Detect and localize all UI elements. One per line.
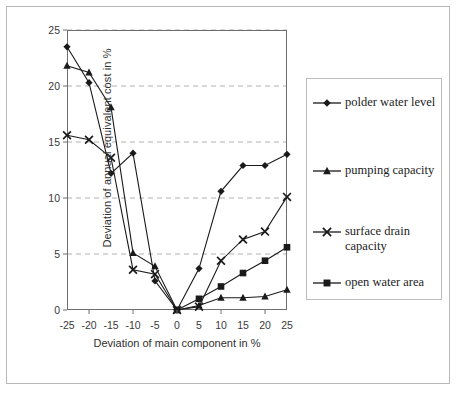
x-tick-label: 0	[174, 319, 180, 331]
diamond-marker-icon	[312, 96, 342, 110]
series-open-water-area	[174, 244, 291, 313]
x-tick-label: -5	[150, 319, 159, 331]
x-tick-label: 5	[196, 319, 202, 331]
x-tick-label: 15	[237, 319, 249, 331]
y-tick-mark	[63, 310, 67, 311]
y-tick-label: 5	[54, 248, 60, 260]
x-tick-label: -10	[125, 319, 140, 331]
y-tick-label: 15	[48, 136, 60, 148]
y-tick-mark	[63, 30, 67, 31]
legend-item-polder-water-level[interactable]: polder water level	[312, 95, 440, 129]
series-surface-drain-capacity	[63, 131, 291, 314]
y-tick-mark	[63, 142, 67, 143]
x-tick-mark	[177, 310, 178, 314]
cross-marker-icon	[312, 225, 342, 239]
legend-label: polder water level	[342, 95, 435, 110]
x-tick-mark	[265, 310, 266, 314]
series-polder-water-level	[63, 43, 290, 313]
y-tick-mark	[63, 198, 67, 199]
legend-item-surface-drain-capacity[interactable]: surface drain capacity	[312, 224, 440, 258]
legend-label: open water area	[342, 275, 424, 290]
y-tick-mark	[63, 254, 67, 255]
y-tick-label: 25	[48, 24, 60, 36]
x-tick-label: 20	[259, 319, 271, 331]
x-tick-label: -20	[81, 319, 96, 331]
x-tick-mark	[89, 310, 90, 314]
x-tick-label: -15	[103, 319, 118, 331]
y-tick-label: 10	[48, 192, 60, 204]
x-axis-title: Deviation of main component in %	[67, 337, 287, 349]
square-marker-icon	[312, 276, 342, 290]
series-pumping-capacity	[63, 62, 290, 313]
plot-area: 0510152025 -25-20-15-10-50510152025 Devi…	[67, 30, 287, 310]
x-tick-label: -25	[59, 319, 74, 331]
legend-label: surface drain capacity	[342, 224, 440, 254]
legend: polder water levelpumping capacitysurfac…	[306, 78, 442, 300]
x-tick-mark	[221, 310, 222, 314]
legend-item-pumping-capacity[interactable]: pumping capacity	[312, 163, 440, 197]
triangle-marker-icon	[312, 164, 342, 178]
y-tick-label: 20	[48, 80, 60, 92]
x-tick-label: 10	[215, 319, 227, 331]
y-axis-title: Deviation of annual equivalent cost in %	[101, 3, 113, 293]
x-tick-mark	[133, 310, 134, 314]
legend-label: pumping capacity	[342, 163, 434, 178]
x-tick-label: 25	[281, 319, 293, 331]
legend-item-open-water-area[interactable]: open water area	[312, 275, 440, 309]
data-series-layer	[67, 30, 287, 310]
y-tick-mark	[63, 86, 67, 87]
y-tick-label: 0	[54, 304, 60, 316]
chart-figure: 0510152025 -25-20-15-10-50510152025 Devi…	[0, 0, 457, 397]
